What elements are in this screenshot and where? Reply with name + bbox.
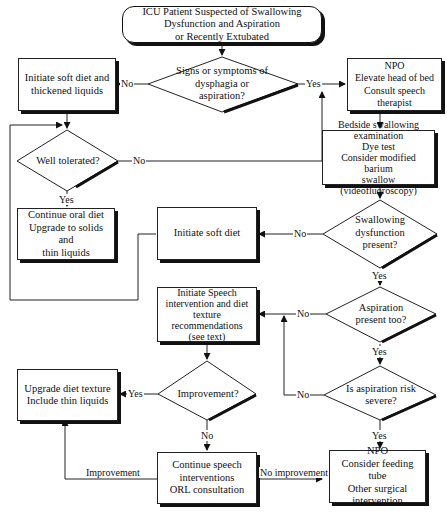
label-yes: Yes (371, 270, 388, 281)
label-yes: Yes (305, 78, 322, 89)
bedside-node: Bedside swallowing examination Dye test … (322, 130, 435, 185)
speech-node: Initiate Speech intervention and diet te… (157, 287, 257, 342)
label-no: No (293, 228, 307, 239)
label-yes: Yes (371, 430, 388, 441)
label-no: No (120, 78, 134, 89)
continue-oral-node: Continue oral diet Upgrade to solids and… (17, 208, 115, 260)
label-no: No (296, 389, 310, 400)
well-tolerated-text: Well tolerated? (22, 152, 114, 170)
swallowing-text: Swallowing dysfunction present? (340, 214, 420, 252)
label-no: No (200, 430, 214, 441)
label-yes: Yes (127, 388, 144, 399)
signs-text: Signs or symptoms of dysphagia or aspira… (160, 66, 284, 102)
risk-text: Is aspiration risk severe? (335, 381, 427, 409)
npo-feeding-node: NPO Consider feeding tube Other surgical… (329, 450, 426, 503)
label-improvement: Improvement (85, 467, 141, 478)
aspiration-text: Aspiration present too? (345, 300, 417, 328)
label-yes: Yes (371, 346, 388, 357)
soft-diet-node: Initiate soft diet (157, 207, 257, 260)
label-yes: Yes (58, 194, 75, 205)
upgrade-node: Upgrade diet texture Include thin liquid… (17, 369, 118, 421)
start-text: ICU Patient Suspected of Swallowing Dysf… (142, 6, 301, 44)
npo-node: NPO Elevate head of bed Consult speech t… (347, 58, 442, 111)
start-node: ICU Patient Suspected of Swallowing Dysf… (122, 6, 322, 43)
continue-speech-node: Continue speech interventions ORL consul… (157, 452, 257, 504)
improvement-text: Improvement? (165, 385, 251, 403)
label-no: No (296, 308, 310, 319)
label-no: No (132, 155, 146, 166)
label-no-improvement: No improvement (259, 467, 329, 478)
soft-thick-node: Initiate soft diet and thickened liquids (18, 58, 116, 111)
